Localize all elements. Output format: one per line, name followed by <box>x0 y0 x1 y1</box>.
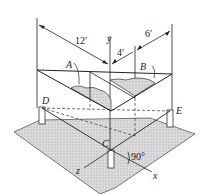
label-c: C <box>102 138 109 149</box>
label-x: x <box>152 170 158 181</box>
ground-plane <box>14 118 195 194</box>
label-e: E <box>175 105 182 116</box>
truss-diagram: 12′ 4′ 6′ y A B D E C 90° z x <box>0 0 204 194</box>
label-y: y <box>106 33 112 44</box>
label-angle: 90° <box>131 151 145 162</box>
post-c <box>108 150 114 168</box>
dim-6: 6′ <box>145 28 152 39</box>
dim-12: 12′ <box>75 35 87 46</box>
label-d: D <box>41 95 50 106</box>
dim-4: 4′ <box>117 47 124 58</box>
label-a: A <box>65 59 73 70</box>
label-b: B <box>140 61 146 72</box>
label-z: z <box>75 165 80 176</box>
